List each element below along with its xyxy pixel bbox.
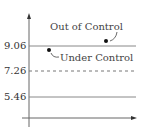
ucl-label: 9.06 — [4, 40, 26, 51]
out-of-control-label: Out of Control — [50, 21, 123, 32]
under-control-pointer — [51, 53, 59, 57]
under-control-label: Under Control — [60, 52, 133, 63]
out-of-control-pointer — [110, 32, 117, 41]
control-chart: 9.06 7.26 5.46 Out of Control Under Cont… — [0, 0, 147, 132]
x-axis-arrow-icon — [131, 116, 137, 120]
under-control-point — [47, 48, 51, 52]
cl-label: 7.26 — [4, 65, 26, 76]
out-of-control-point — [104, 39, 108, 43]
y-axis-arrow-icon — [27, 13, 31, 19]
lcl-label: 5.46 — [4, 91, 26, 102]
